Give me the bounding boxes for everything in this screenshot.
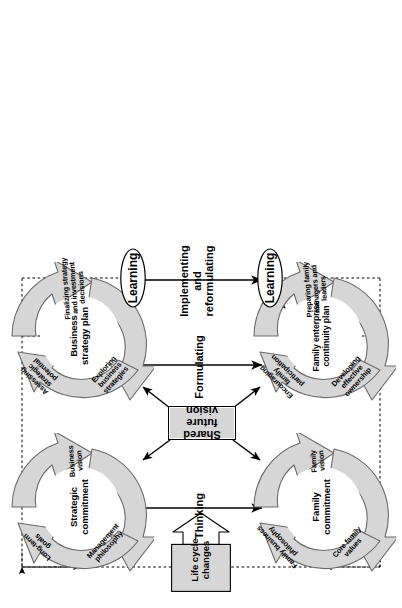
diagram-canvas: Strategic commitment Long-term goals Bus…: [0, 0, 402, 608]
ring-label-preparing-family-managers: Preparing family managers and leaders: [302, 257, 331, 321]
learning-ellipse-top: Learning: [120, 248, 146, 308]
ring-label-finalizing-strategy: Finalizing strategy and investment decis…: [60, 255, 89, 321]
learning-label-bottom: Learning: [257, 248, 283, 308]
shared-future-vision-label: Shared future vision: [183, 405, 220, 441]
shared-future-vision-box: Shared future vision: [168, 406, 236, 440]
phase-label-thinking: Thinking: [193, 486, 206, 546]
wheel-strategic-commitment: Strategic commitment Long-term goals Bus…: [6, 433, 154, 581]
wheel-family-commitment: Family commitment Family business philos…: [248, 433, 396, 581]
phase-label-formulating: Formulating: [193, 331, 206, 403]
diagram-stage: Strategic commitment Long-term goals Bus…: [0, 0, 402, 608]
learning-label-top: Learning: [120, 248, 146, 308]
phase-label-implementing-and-reformulating: Implementing and reformulating: [178, 242, 216, 320]
learning-ellipse-bottom: Learning: [257, 248, 283, 308]
